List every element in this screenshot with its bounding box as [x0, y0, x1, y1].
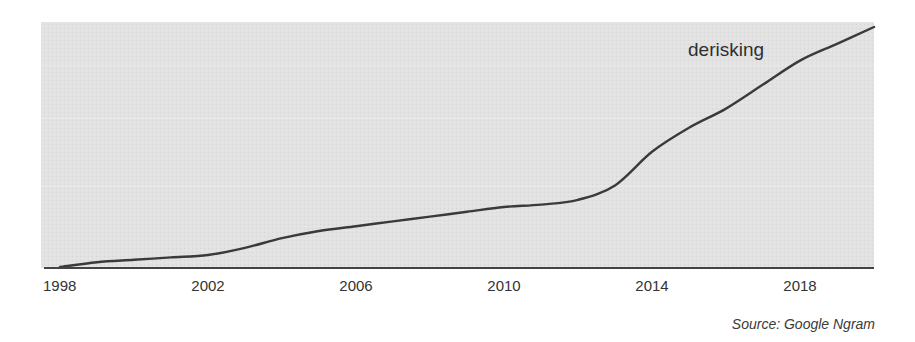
series-label: derisking [688, 39, 764, 60]
x-tick-label: 1998 [43, 277, 76, 294]
x-tick-label: 2002 [191, 277, 224, 294]
x-tick-label: 2006 [339, 277, 372, 294]
source-caption: Source: Google Ngram [732, 316, 875, 332]
x-tick-label: 2010 [487, 277, 520, 294]
x-tick-label: 2014 [635, 277, 668, 294]
line-chart: 199820022006201020142018 derisking [0, 0, 915, 342]
x-axis-ticks: 199820022006201020142018 [43, 277, 817, 294]
x-tick-label: 2018 [783, 277, 816, 294]
